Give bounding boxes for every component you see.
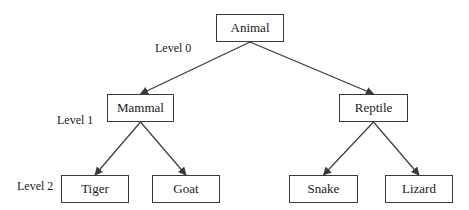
node-lizard: Lizard (385, 175, 453, 203)
node-label-lizard: Lizard (402, 181, 436, 197)
node-label-tiger: Tiger (81, 181, 109, 197)
node-label-reptile: Reptile (355, 100, 393, 116)
edge-animal-reptile (250, 42, 374, 94)
node-tiger: Tiger (61, 175, 129, 203)
level-0-label: Level 0 (155, 41, 191, 56)
node-label-snake: Snake (308, 181, 340, 197)
node-label-goat: Goat (173, 181, 198, 197)
node-reptile: Reptile (339, 94, 408, 122)
node-animal: Animal (216, 14, 284, 42)
node-goat: Goat (152, 175, 220, 203)
edge-mammal-tiger (95, 122, 141, 175)
node-label-animal: Animal (231, 20, 270, 36)
node-label-mammal: Mammal (117, 100, 164, 116)
edge-reptile-lizard (374, 122, 420, 175)
edge-mammal-goat (141, 122, 187, 175)
node-snake: Snake (289, 175, 358, 203)
level-2-label: Level 2 (17, 179, 53, 194)
edge-reptile-snake (324, 122, 374, 175)
level-1-label: Level 1 (57, 113, 93, 128)
node-mammal: Mammal (107, 94, 174, 122)
